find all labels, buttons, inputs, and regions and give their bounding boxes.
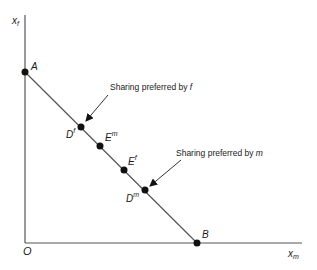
- arrow-pref-f: [86, 95, 108, 121]
- x-axis-label: xm: [287, 248, 299, 260]
- line-AB: [25, 72, 197, 243]
- y-axis-label: xf: [11, 15, 20, 27]
- point-Dm: [142, 187, 149, 194]
- label-Dm: Dm: [126, 191, 139, 204]
- diagram-canvas: xf xm O A Df Em Ef Dm B Sharing preferre…: [0, 0, 317, 270]
- point-Em: [97, 143, 104, 150]
- annotation-pref-f: Sharing preferred by f: [110, 82, 194, 92]
- point-Ef: [121, 167, 128, 174]
- point-B: [194, 240, 201, 247]
- label-A: A: [30, 61, 38, 72]
- label-Ef: Ef: [128, 154, 138, 167]
- label-B: B: [202, 229, 209, 240]
- origin-label: O: [23, 245, 32, 257]
- label-Em: Em: [105, 130, 118, 143]
- point-Df: [78, 124, 85, 131]
- arrow-pref-m: [150, 160, 181, 186]
- point-A: [22, 69, 29, 76]
- label-Df: Df: [66, 127, 76, 140]
- annotation-pref-m: Sharing preferred by m: [176, 148, 263, 158]
